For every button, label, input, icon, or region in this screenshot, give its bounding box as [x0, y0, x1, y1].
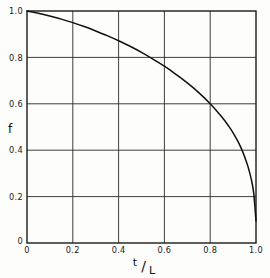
chart-figure: 0 0.2 0.4 0.6 0.8 1.0 0 0.2 0.4 0.6 0.8 …: [0, 0, 270, 278]
x-tick-label-0.2: 0.2: [66, 245, 80, 255]
y-tick-label-0.6: 0.6: [9, 99, 23, 109]
x-tick-label-0.8: 0.8: [203, 245, 217, 255]
y-tick-label-0.4: 0.4: [9, 145, 23, 155]
x-axis-title-numerator: t: [133, 256, 138, 269]
y-tick-label-0.2: 0.2: [9, 192, 23, 202]
x-axis-title: t / L: [133, 256, 156, 277]
x-axis-title-bar: /: [141, 258, 146, 274]
y-tick-label-0: 0: [17, 236, 23, 246]
chart-plot-area: 0 0.2 0.4 0.6 0.8 1.0 0 0.2 0.4 0.6 0.8 …: [0, 0, 270, 278]
x-tick-label-0: 0: [24, 245, 30, 255]
y-tick-label-0.8: 0.8: [9, 53, 23, 63]
y-tick-label-1.0: 1.0: [9, 6, 23, 16]
y-axis-title: f: [8, 122, 13, 136]
plot-background: [27, 11, 256, 243]
x-axis-title-denominator: L: [149, 264, 156, 277]
x-tick-labels: 0 0.2 0.4 0.6 0.8 1.0: [24, 245, 263, 255]
x-tick-label-0.4: 0.4: [112, 245, 126, 255]
x-tick-label-0.6: 0.6: [157, 245, 171, 255]
x-tick-label-1.0: 1.0: [249, 245, 263, 255]
